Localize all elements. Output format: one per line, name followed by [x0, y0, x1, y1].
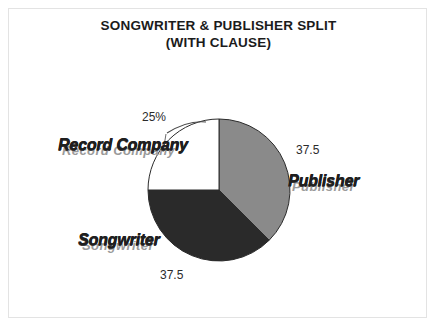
category-label-record-company-text: Record Company — [58, 136, 188, 153]
category-label-publisher-text: Publisher — [288, 172, 359, 189]
chart-figure: SONGWRITER & PUBLISHER SPLIT (WITH CLAUS… — [0, 0, 437, 328]
category-label-songwriter: Songwriter Songwriter — [78, 231, 160, 249]
value-label-record-company: 25% — [142, 110, 166, 124]
category-label-record-company: Record Company Record Company — [58, 136, 188, 154]
value-label-publisher: 37.5 — [296, 143, 319, 157]
category-label-songwriter-text: Songwriter — [78, 231, 160, 248]
category-label-publisher: Publisher Publisher — [288, 172, 359, 190]
pie-svg — [0, 0, 437, 328]
pie-chart — [0, 0, 437, 328]
value-label-songwriter: 37.5 — [160, 268, 183, 282]
